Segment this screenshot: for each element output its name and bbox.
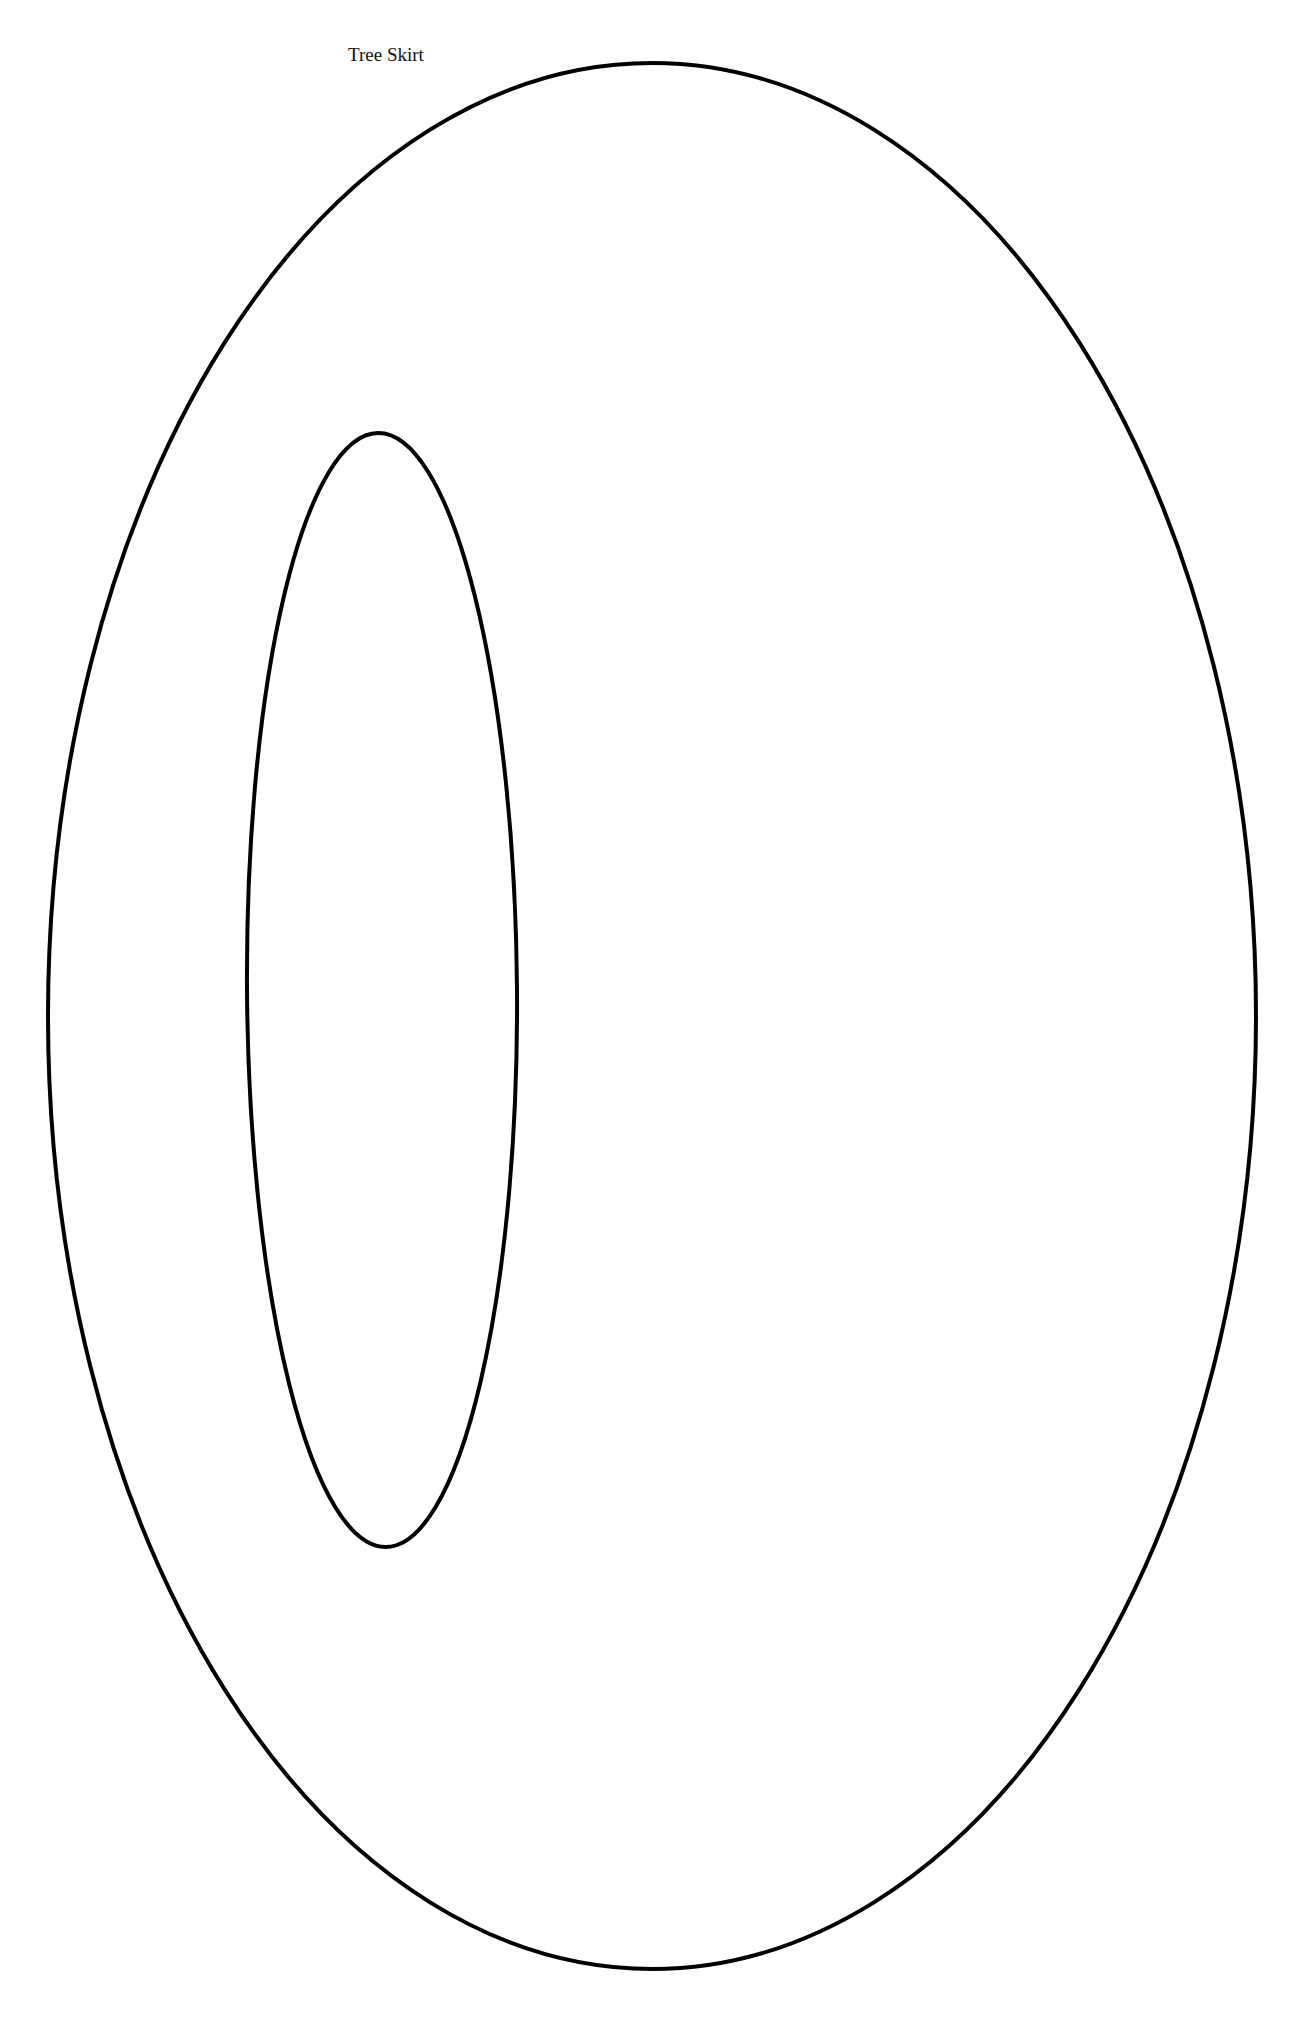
outer-ellipse-outline (48, 63, 1256, 1969)
tree-skirt-pattern (0, 0, 1312, 2030)
inner-ellipse-outline (243, 432, 521, 1548)
